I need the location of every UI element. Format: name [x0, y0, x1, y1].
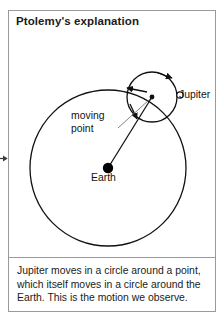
moving-point-marker — [150, 95, 155, 100]
caption-line-2: which itself moves in a circle around th… — [17, 278, 209, 292]
caption-divider — [9, 257, 215, 258]
moving-point-label: moving point — [71, 110, 105, 135]
earth-label: Earth — [91, 172, 116, 185]
diagram-canvas — [9, 40, 215, 256]
page-root: Ptolemy's explanation — [0, 0, 224, 316]
jupiter-label: Jupiter — [179, 89, 210, 102]
caption-text: Jupiter moves in a circle around a point… — [17, 264, 209, 305]
moving-point-leader-line — [118, 99, 150, 128]
page-title: Ptolemy's explanation — [16, 15, 139, 27]
deferent-direction-arrow — [127, 88, 147, 92]
caption-line-1: Jupiter moves in a circle around a point… — [17, 264, 209, 278]
edge-arrow-icon — [0, 155, 9, 162]
caption-line-3: Earth. This is the motion we observe. — [17, 291, 209, 305]
epicycle-direction-arrow-top — [158, 73, 172, 78]
moving-point-label-line1: moving — [71, 110, 105, 123]
moving-point-label-line2: point — [71, 123, 105, 136]
